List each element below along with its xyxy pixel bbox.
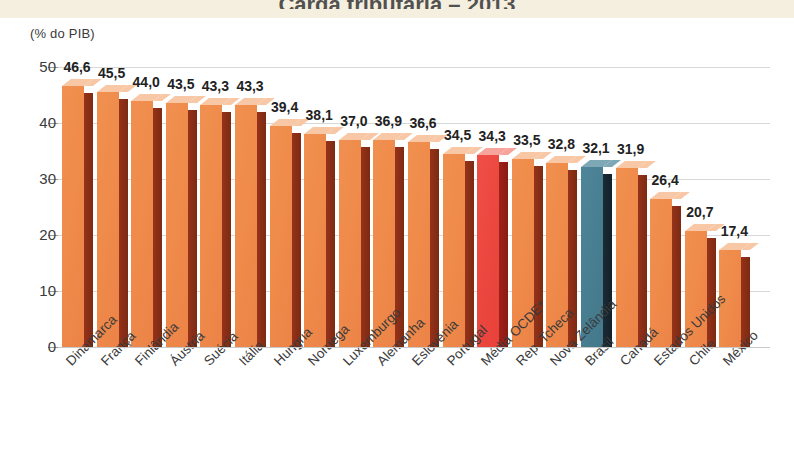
bar-dinamarca[interactable]: [62, 86, 93, 347]
bar-front-face: [131, 101, 153, 347]
bar-value-label: 20,7: [677, 204, 723, 220]
bar-side-face: [672, 206, 681, 347]
bar-side-face: [257, 112, 266, 347]
bar-side-face: [188, 110, 197, 347]
bar-side-face: [638, 175, 647, 347]
bar-eslov-nia[interactable]: [408, 142, 439, 347]
bar-front-face: [62, 86, 84, 347]
bar-noruega[interactable]: [304, 134, 335, 347]
bar-front-face: [477, 155, 499, 347]
bar-m-dia-ocde[interactable]: [477, 155, 508, 347]
bar-finl-ndia[interactable]: [131, 101, 162, 347]
bar-side-face: [707, 238, 716, 347]
bar-hungria[interactable]: [270, 126, 301, 347]
gridline: [58, 67, 770, 68]
bar-front-face: [339, 140, 361, 347]
bar-front-face: [650, 199, 672, 347]
bar-top-face: [166, 96, 197, 103]
bar-side-face: [153, 108, 162, 347]
bar-fran-a[interactable]: [97, 92, 128, 347]
chart-page: Carga tributária – 2013 (% do PIB) 01020…: [0, 0, 794, 467]
bar-value-label: 43,3: [227, 78, 273, 94]
bar-value-label: 26,4: [642, 172, 688, 188]
y-tick-label: 10: [16, 282, 56, 299]
bar-su-cia[interactable]: [200, 105, 231, 347]
bar-side-face: [465, 161, 474, 347]
bar-top-face: [650, 192, 681, 199]
bar-front-face: [443, 154, 465, 347]
bar-top-face: [339, 133, 370, 140]
y-tick-label: 40: [16, 114, 56, 131]
y-tick-label: 0: [16, 338, 56, 355]
bar-front-face: [235, 105, 257, 347]
x-axis-baseline: [58, 347, 770, 348]
bar-top-face: [373, 133, 404, 140]
bar-ustria[interactable]: [166, 103, 197, 347]
bar-top-face: [546, 156, 577, 163]
bar-top-face: [581, 160, 612, 167]
bar-top-face: [616, 161, 647, 168]
bar-side-face: [361, 147, 370, 347]
bar-side-face: [222, 112, 231, 347]
bar-top-face: [200, 98, 231, 105]
bar-front-face: [270, 126, 292, 347]
bar-top-face: [719, 243, 750, 250]
bar-it-lia[interactable]: [235, 105, 266, 347]
bar-side-face: [84, 93, 93, 347]
bar-luxemburgo[interactable]: [339, 140, 370, 347]
bar-front-face: [200, 105, 222, 347]
bar-estados-unidos[interactable]: [650, 199, 681, 347]
bar-top-face: [477, 148, 508, 155]
bar-top-face: [131, 94, 162, 101]
bar-canad[interactable]: [616, 168, 647, 347]
bar-top-face: [512, 152, 543, 159]
plot-area: 01020304050 46,645,544,043,543,343,339,4…: [0, 0, 794, 467]
y-tick-label: 20: [16, 226, 56, 243]
bar-value-label: 17,4: [711, 223, 757, 239]
bar-side-face: [292, 133, 301, 347]
y-tick-label: 50: [16, 58, 56, 75]
bar-side-face: [430, 149, 439, 347]
y-tick-label: 30: [16, 170, 56, 187]
bar-value-label: 31,9: [608, 141, 654, 157]
bar-side-face: [499, 162, 508, 347]
bar-front-face: [616, 168, 638, 347]
bar-side-face: [326, 141, 335, 347]
bar-front-face: [304, 134, 326, 347]
bar-top-face: [443, 147, 474, 154]
bar-front-face: [97, 92, 119, 347]
bar-front-face: [166, 103, 188, 347]
bar-side-face: [119, 99, 128, 347]
